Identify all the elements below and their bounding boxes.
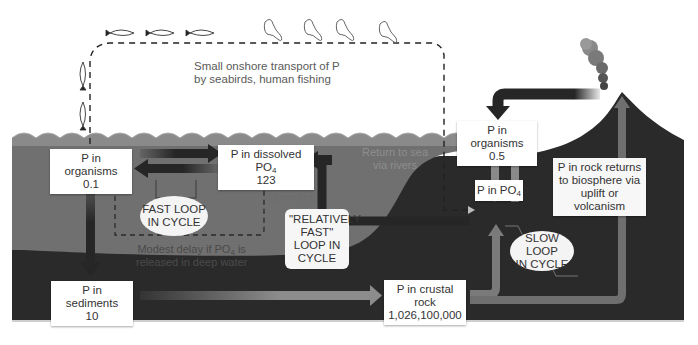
onshore-transport-label: Small onshore transport of P by seabirds…: [194, 60, 340, 86]
rock-returns-box: P in rock returns to biosphere via uplif…: [553, 158, 646, 216]
slow-loop-oval: SLOW LOOP IN CYCLE: [510, 231, 574, 271]
seabird-icon: [264, 19, 396, 42]
fast-loop-oval: FAST LOOP IN CYCLE: [140, 196, 208, 236]
ocean-organisms-box: P in organisms 0.1: [50, 149, 132, 194]
land-po4-box: P in PO4: [475, 180, 523, 201]
fish-icon: [80, 62, 86, 130]
arrow-volcano-to-organisms: [486, 94, 600, 120]
upwelling-label: Upwelling: [269, 191, 317, 204]
phosphorus-cycle-diagram: Small onshore transport of P by seabirds…: [0, 0, 698, 345]
volcano-smoke-icon: [580, 38, 608, 90]
fish-icon: [106, 30, 214, 36]
sediments-box: P in sediments 10: [51, 281, 133, 326]
relatively-fast-loop-box: "RELATIVELY FAST" LOOP IN CYCLE: [285, 209, 349, 269]
dissolved-po4-box: P in dissolved PO4 123: [218, 145, 314, 190]
return-to-sea-label: Return to sea via rivers: [362, 146, 428, 172]
modest-delay-label: Modest delay if PO4 is released in deep …: [136, 243, 247, 269]
crustal-rock-box: P in crustal rock 1,026,100,000: [384, 280, 466, 325]
land-organisms-box: P in organisms 0.5: [457, 121, 537, 166]
